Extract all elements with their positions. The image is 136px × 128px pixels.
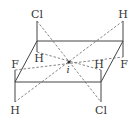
atom-label-f-left: F [11,58,19,71]
atom-label-cl-bottom: Cl [95,104,107,117]
inversion-center-diagram: Cl H H F F H H Cl i [0,0,136,128]
atom-label-f-right: F [120,58,128,71]
inversion-center-label: i [66,64,69,75]
atom-label-h-inner-right: H [94,58,104,71]
atom-label-cl-top: Cl [31,8,43,21]
atom-label-h-bottom-left: H [10,104,20,117]
atom-label-h-inner-left: H [34,52,44,65]
atom-label-h-top-right: H [118,8,128,21]
